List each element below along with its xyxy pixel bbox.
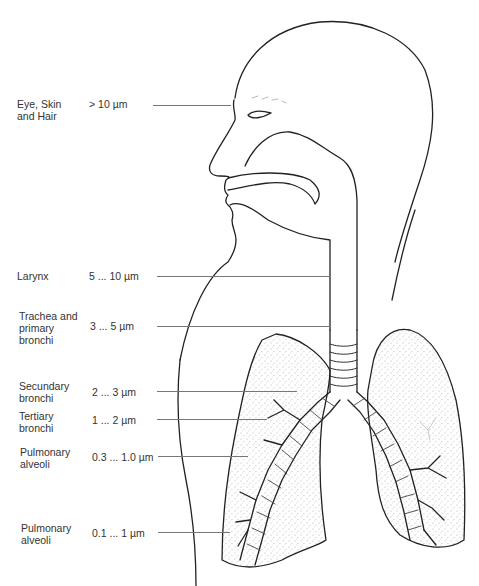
respiratory-illustration [0, 0, 479, 586]
size-trachea: 3 ... 5 µm [90, 320, 134, 332]
region-label-trachea: Trachea and primary bronchi [19, 310, 78, 346]
region-line: Tertiary [19, 410, 53, 422]
region-line: alveoli [20, 458, 70, 470]
region-line: Eye, Skin [17, 98, 61, 110]
right-lung [368, 329, 465, 547]
region-line: Secundary [19, 380, 69, 392]
region-line: bronchi [19, 422, 53, 434]
nasal-cavity [245, 132, 357, 330]
region-label-secundary-bronchi: Secundary bronchi [19, 380, 69, 404]
leader-line-tertiary [157, 419, 267, 420]
region-label-pulmonary-alveoli-1: Pulmonary alveoli [20, 446, 70, 470]
size-secundary-bronchi: 2 ... 3 µm [92, 386, 136, 398]
leader-line-larynx [157, 276, 330, 277]
region-line: bronchi [19, 392, 69, 404]
region-label-tertiary-bronchi: Tertiary bronchi [19, 410, 53, 434]
region-line: and Hair [17, 110, 61, 122]
region-label-pulmonary-alveoli-2: Pulmonary alveoli [21, 522, 71, 546]
eye [248, 111, 271, 118]
leader-line-eye [153, 105, 231, 106]
leader-line-alveoli-2 [158, 532, 230, 533]
region-line: Larynx [17, 270, 49, 282]
pharynx [230, 204, 330, 330]
leader-line-secundary [157, 391, 297, 392]
left-lung [222, 334, 330, 567]
head-outline [235, 22, 433, 262]
leader-line-alveoli-1 [158, 456, 248, 457]
size-pulmonary-alveoli-2: 0.1 ... 1 µm [92, 527, 145, 539]
region-label-larynx: Larynx [17, 270, 49, 282]
region-line: Pulmonary [20, 446, 70, 458]
region-line: primary [19, 322, 78, 334]
size-pulmonary-alveoli-1: 0.3 ... 1.0 µm [92, 451, 154, 463]
leader-line-trachea [157, 326, 330, 327]
region-label-eye-skin-hair: Eye, Skin and Hair [17, 98, 61, 122]
region-line: alveoli [21, 534, 71, 546]
region-line: Pulmonary [21, 522, 71, 534]
size-larynx: 5 ... 10 µm [89, 270, 139, 282]
face-profile [180, 100, 236, 360]
region-line: Trachea and [19, 310, 78, 322]
region-line: bronchi [19, 334, 78, 346]
size-tertiary-bronchi: 1 ... 2 µm [92, 414, 136, 426]
size-eye-skin-hair: > 10 µm [89, 98, 127, 110]
